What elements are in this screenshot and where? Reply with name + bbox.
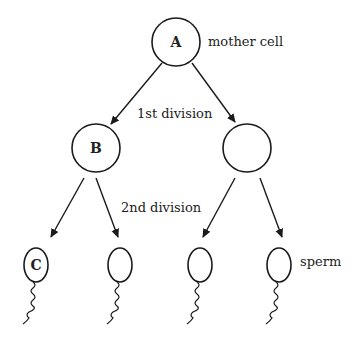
- cell-b: B: [72, 124, 120, 172]
- arrow-right-to-sperm3: [203, 178, 235, 237]
- first-division-label: 1st division: [137, 106, 213, 121]
- arrow-b-to-sperm1: [51, 178, 84, 237]
- sperm-4: [266, 248, 291, 324]
- diagram-canvas: A mother cell 1st division B 2nd divisio…: [0, 0, 356, 347]
- flagellum: [107, 282, 119, 324]
- flagellum: [187, 282, 199, 324]
- mother-cell-label: mother cell: [208, 34, 283, 49]
- sperm-3: [187, 248, 212, 324]
- second-division-label: 2nd division: [121, 200, 202, 215]
- cell-label-c: C: [30, 257, 41, 273]
- cell-label-b: B: [90, 140, 102, 156]
- arrow-right-to-sperm4: [260, 178, 282, 237]
- arrow-b-to-sperm2: [96, 178, 118, 237]
- sperm-2: [107, 248, 132, 324]
- flagellum: [266, 282, 278, 324]
- sperm-label: sperm: [300, 254, 341, 269]
- flagellum: [23, 282, 35, 324]
- cell-label-a: A: [170, 34, 183, 50]
- mother-cell: A: [152, 18, 200, 66]
- sperm-c: C: [23, 248, 48, 324]
- cell-right: [223, 124, 271, 172]
- sperm-formation-diagram: A mother cell 1st division B 2nd divisio…: [0, 0, 356, 347]
